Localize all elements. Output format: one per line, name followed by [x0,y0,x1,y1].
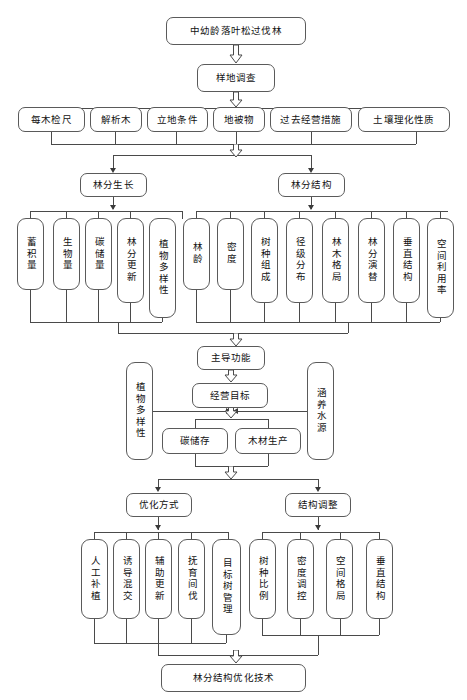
riser-subgoal-2 [268,454,269,466]
riser-subgoal-1 [195,454,196,466]
riser-adj-item-4 [379,619,380,635]
riser-struct-merge [348,322,349,333]
survey-item-2: 立地条件 [147,107,208,132]
bus-growth-items [30,211,182,212]
survey-item-4: 过去经营措施 [270,107,352,132]
flowchart-diagram: 中幼龄落叶松过伐林 样地调查 每木检尺 解析木 立地条件 地被物 过去经营措施 … [0,0,467,700]
node-management-goal: 经营目标 [192,383,268,408]
node-source-forest: 中幼龄落叶松过伐林 [166,17,306,45]
structure-item-2: 树种组成 [251,218,278,303]
arrow-subgoals-to-methods [224,466,238,480]
optimize-item-0: 人工补植 [81,539,108,619]
riser-struct-item-6 [371,303,372,322]
arrow-items-to-branches [229,144,243,158]
riser-survey-3 [176,132,177,144]
structure-item-0: 林龄 [183,218,210,290]
link-water-to-center [237,411,307,412]
subgoal-item-0: 碳储存 [162,428,228,454]
structure-item-5: 林分演替 [358,218,385,303]
arrowhead-optimize-bus [155,525,161,530]
drop-growth-5 [182,211,183,219]
survey-item-3: 地被物 [213,107,265,132]
adjust-item-3: 垂直结构 [366,539,393,619]
riser-struct-item-4 [299,303,300,322]
bus-subgoals [195,419,268,420]
riser-opt-item-3 [158,619,159,643]
riser-struct-item-2 [230,290,231,322]
riser-struct-item-8 [440,318,441,322]
survey-item-1: 解析木 [90,107,142,132]
riser-survey-4 [236,132,237,144]
riser-struct-item-3 [264,303,265,322]
adjust-item-1: 密度调控 [287,539,314,619]
riser-optimize-to-final [158,643,159,655]
riser-adj-item-1 [262,619,263,635]
arrow-dominant-to-goal [224,370,238,383]
bus-branches [113,155,311,156]
structure-item-6: 垂直结构 [393,218,420,303]
riser-adjust-to-final [318,635,319,655]
riser-survey-1 [51,132,52,144]
riser-survey-6 [416,132,417,144]
arrow-to-dominant-function [229,333,243,347]
structure-item-3: 径级分布 [286,218,313,303]
merge-optimize-items [94,643,226,644]
structure-item-7: 空间利用率 [427,218,454,318]
optimize-item-3: 抚育间伐 [178,539,205,619]
riser-opt-item-5 [226,635,227,643]
riser-opt-item-2 [126,619,127,643]
arrow-to-final [229,650,243,664]
node-stand-structure: 林分结构 [278,173,345,197]
optimize-item-1: 诱导混交 [113,539,140,619]
growth-item-0: 蓄积量 [17,218,44,290]
bus-optimize-items [94,532,228,533]
merge-structure-items [196,322,440,323]
riser-adj-item-2 [300,619,301,635]
growth-item-1: 生物量 [53,218,80,290]
bus-method-branches [158,479,318,480]
optimize-item-4: 目标树管理 [212,539,241,635]
growth-item-3: 林分更新 [117,218,144,303]
node-structure-adjust: 结构调整 [285,493,351,517]
riser-opt-item-1 [94,619,95,643]
riser-struct-item-5 [335,303,336,322]
node-stand-growth: 林分生长 [80,173,147,197]
bus-adjust-items [262,532,379,533]
survey-item-0: 每木检尺 [18,107,85,132]
riser-growth-item-4 [130,303,131,322]
riser-growth-merge [118,322,119,333]
subgoal-item-1: 木材生产 [235,428,301,454]
merge-adjust-items [262,635,379,636]
adjust-item-2: 空间格局 [326,539,353,619]
node-plant-diversity-side: 植物多样性 [126,362,153,460]
link-diversity-to-center [153,411,228,412]
bus-structure-items [196,211,448,212]
optimize-item-2: 辅助更新 [145,539,172,619]
riser-opt-item-4 [191,619,192,643]
structure-item-1: 密度 [217,218,244,290]
structure-item-4: 林木格局 [322,218,349,303]
node-plot-survey: 样地调查 [197,64,275,92]
riser-struct-item-7 [406,303,407,322]
growth-item-2: 碳储量 [85,218,112,290]
arrow-survey-to-items [229,92,243,108]
riser-survey-2 [115,132,116,144]
adjust-item-0: 树种比例 [249,539,276,619]
riser-adj-item-3 [340,619,341,635]
node-final-technology: 林分结构优化技术 [161,664,306,692]
arrowhead-adjust-bus [315,525,321,530]
merge-growth-items [30,322,162,323]
riser-growth-item-1 [30,290,31,322]
growth-item-4: 植物多样性 [149,218,176,318]
arrowhead-growth-bus [110,205,116,210]
riser-growth-item-5 [162,318,163,322]
riser-struct-item-1 [196,290,197,322]
node-water-conservation-side: 涵养水源 [307,362,334,460]
node-dominant-function: 主导功能 [197,346,265,370]
node-optimize-method: 优化方式 [126,493,192,517]
arrowhead-structure-bus [308,205,314,210]
arrowhead-optimize [155,487,161,492]
riser-growth-item-2 [66,290,67,322]
arrow-title-to-survey [229,45,243,64]
survey-item-5: 土壤理化性质 [358,107,450,132]
